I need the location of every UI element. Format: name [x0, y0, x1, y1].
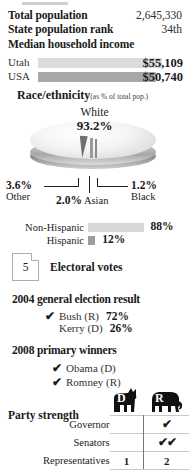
hispanic-origin-chart: Non-Hispanic 88% Hispanic 12% — [0, 221, 189, 247]
party-cell-r: ✔ — [144, 416, 189, 434]
donkey-icon: D — [112, 387, 142, 413]
hispanic-row-hispanic: Hispanic 12% — [0, 234, 189, 247]
median-income-heading: Median household income — [0, 37, 189, 52]
callout-percent: 3.6% — [6, 179, 32, 191]
stat-row-population-rank: State population rank 34th — [0, 23, 189, 37]
callout-label: Asian — [84, 195, 109, 206]
income-row-utah: Utah $55,109 — [0, 55, 189, 69]
hispanic-percent: 12% — [102, 233, 125, 245]
primary-2008-row-romney: ✔ Romney (R) — [52, 375, 121, 390]
table-row: Governor ✔ — [0, 416, 189, 434]
candidate-name: Bush (R) — [59, 310, 99, 322]
race-subheading-text: (as % of total pop.) — [90, 92, 148, 101]
income-row-label: Utah — [8, 56, 38, 68]
income-value: $50,740 — [142, 70, 183, 85]
electoral-votes-label: Electoral votes — [50, 261, 123, 273]
pie-callouts: 3.6% Other 2.0% Asian 1.2% Black — [0, 176, 189, 212]
stat-label: Total population — [8, 9, 87, 21]
party-row-label: Senators — [0, 434, 110, 452]
top-divider — [22, 2, 68, 5]
pie-main-label: White 93.2% — [0, 106, 189, 132]
stat-list: Total population 2,645,330 State populat… — [0, 9, 189, 52]
party-cell-d: 1 — [110, 452, 144, 470]
party-strength-table: Governor ✔ Senators ✔✔ Representatives 1… — [0, 415, 189, 470]
primary-2008-heading: 2008 primary winners — [12, 344, 117, 356]
party-cell-r: 2 — [144, 452, 189, 470]
pie-slice-asian — [90, 138, 93, 158]
electoral-votes-block: 5 Electoral votes — [12, 253, 39, 281]
election-2004-row-kerry: Kerry (D) 26% — [45, 322, 133, 334]
callout-label: Other — [6, 191, 30, 202]
stat-value: 2,645,330 — [136, 9, 182, 21]
election-2004-heading: 2004 general election result — [12, 293, 140, 305]
elephant-icon: R — [150, 387, 184, 413]
leader-line-other — [44, 186, 78, 187]
callout-percent: 2.0% — [56, 194, 82, 206]
hispanic-row-non-hispanic: Non-Hispanic 88% — [0, 221, 189, 234]
candidate-percent: 72% — [106, 310, 129, 322]
hispanic-bar-fill — [88, 223, 144, 232]
table-row: Senators ✔✔ — [0, 434, 189, 452]
callout-other: 3.6% Other — [6, 180, 32, 202]
hispanic-row-label: Hispanic — [0, 235, 88, 246]
callout-black: 1.2% Black — [131, 180, 157, 202]
candidate-name: Obama (D) — [66, 362, 116, 374]
candidate-name: Kerry (D) — [59, 322, 103, 334]
electoral-votes-count: 5 — [12, 253, 39, 281]
pie-main-category: White — [80, 106, 108, 118]
leader-line-other-stub — [78, 178, 79, 187]
race-ethnicity-heading: Race/ethnicity(as % of total pop.) — [17, 88, 148, 103]
party-row-label: Representatives — [0, 452, 110, 470]
candidate-percent: 26% — [110, 322, 133, 334]
income-row-label: USA — [8, 70, 38, 82]
income-bar-track: $50,740 — [38, 71, 189, 82]
income-bar-fill — [38, 72, 156, 82]
income-value: $55,109 — [142, 56, 183, 71]
hispanic-bar-track: 88% — [88, 222, 189, 233]
table-row: Representatives 1 2 — [0, 452, 189, 470]
hispanic-percent: 88% — [151, 220, 174, 232]
hispanic-bar-fill — [88, 236, 95, 245]
income-row-usa: USA $50,740 — [0, 69, 189, 83]
leader-line-black-h — [97, 186, 128, 187]
callout-asian: 2.0% Asian — [56, 195, 108, 206]
pie-slice-black — [95, 139, 97, 158]
stat-label: State population rank — [8, 23, 113, 35]
stat-row-total-population: Total population 2,645,330 — [0, 9, 189, 23]
check-icon: ✔ — [52, 375, 66, 390]
party-letter-d: D — [117, 391, 126, 406]
primary-2008-row-obama: ✔ Obama (D) — [52, 361, 116, 376]
race-heading-text: Race/ethnicity — [17, 88, 90, 102]
party-cell-d — [110, 416, 144, 434]
leader-line-asian — [89, 176, 90, 193]
party-cell-r: ✔✔ — [144, 434, 189, 452]
median-income-chart: Utah $55,109 USA $50,740 — [0, 55, 189, 83]
pie-slice-other — [78, 136, 88, 159]
pie-main-value: 93.2% — [0, 119, 189, 132]
party-row-label: Governor — [0, 416, 110, 434]
income-bar-track: $55,109 — [38, 57, 189, 68]
hispanic-row-label: Non-Hispanic — [0, 222, 88, 233]
hispanic-bar-track: 12% — [88, 235, 189, 246]
race-pie-chart: White 93.2% — [0, 103, 189, 185]
callout-percent: 1.2% — [131, 179, 157, 191]
party-cell-d — [110, 434, 144, 452]
party-icons: D R — [112, 387, 184, 413]
callout-label: Black — [131, 191, 156, 202]
stat-value: 34th — [162, 23, 182, 35]
party-letter-r: R — [155, 391, 164, 406]
check-icon: ✔ — [52, 361, 66, 376]
